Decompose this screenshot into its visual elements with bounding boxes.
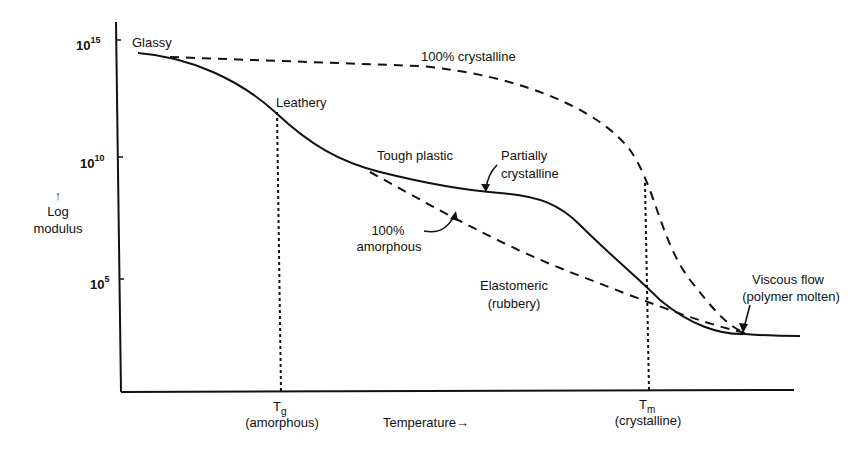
x-axis <box>121 390 794 392</box>
y-tick-label-5: 105 <box>90 274 109 292</box>
y-label-arrow: ↑ <box>55 188 62 203</box>
temperature-label: Temperature→ <box>383 415 469 430</box>
label-amorphous-1: 100% <box>371 223 405 238</box>
label-partially-2: crystalline <box>501 166 559 181</box>
y-label-line2: modulus <box>33 221 83 236</box>
y-label-line1: Log <box>47 204 69 219</box>
polymer-modulus-diagram: 1015 1010 105 ↑ Log modulus Glassy 100% … <box>0 0 857 457</box>
label-glassy: Glassy <box>132 35 172 50</box>
label-partially-1: Partially <box>501 148 548 163</box>
arrow-100-amorphous <box>424 216 454 232</box>
y-axis <box>116 22 121 392</box>
label-viscous-2: (polymer molten) <box>742 289 840 304</box>
series-100-amorphous <box>370 172 745 333</box>
y-tick-label-10: 1010 <box>80 153 104 171</box>
label-elastomeric-1: Elastomeric <box>480 278 548 293</box>
series-100-crystalline <box>170 57 745 333</box>
label-viscous-1: Viscous flow <box>752 272 825 287</box>
label-amorphous-2: amorphous <box>356 239 422 254</box>
label-leathery: Leathery <box>276 95 327 110</box>
y-tick-label-15: 1015 <box>76 35 100 53</box>
label-100-crystalline: 100% crystalline <box>421 49 516 64</box>
tm-label: (crystalline) <box>615 413 681 428</box>
label-elastomeric-2: (rubbery) <box>488 296 541 311</box>
label-tough-plastic: Tough plastic <box>377 148 453 163</box>
tg-marker-line <box>277 112 281 392</box>
tg-label: (amorphous) <box>245 415 319 430</box>
